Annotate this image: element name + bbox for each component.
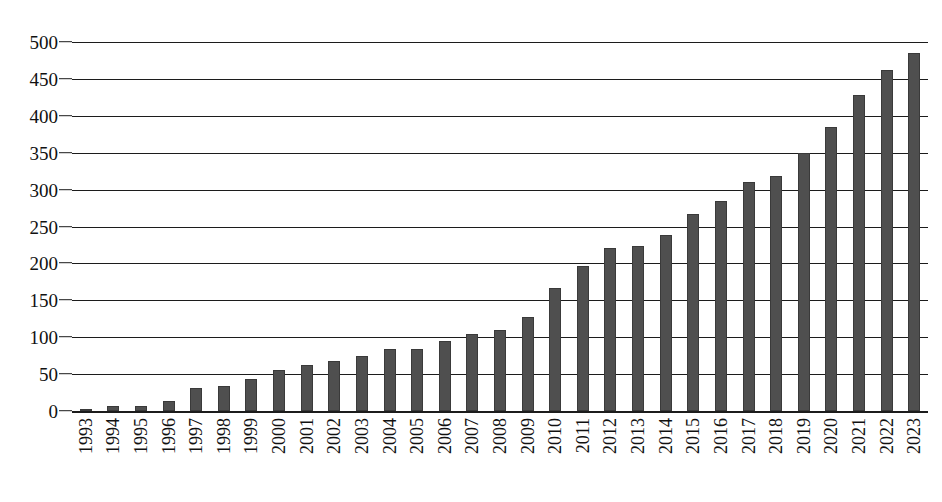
bar-slot — [127, 42, 155, 411]
bar[interactable] — [632, 246, 644, 411]
x-tick-label-2008: 2008 — [491, 418, 509, 454]
x-tick-label-2000: 2000 — [270, 418, 288, 454]
x-tick-label-2007: 2007 — [463, 418, 481, 454]
bar[interactable] — [80, 409, 92, 411]
bar[interactable] — [770, 176, 782, 411]
bar-slot — [624, 42, 652, 411]
bar-slot — [818, 42, 846, 411]
bar-slot — [845, 42, 873, 411]
y-tick-label-50: 50 — [0, 365, 58, 384]
plot-area — [72, 42, 928, 411]
bar[interactable] — [356, 356, 368, 411]
bar-slot — [321, 42, 349, 411]
x-tick-label-2006: 2006 — [436, 418, 454, 454]
bar-slot — [155, 42, 183, 411]
bars-container — [72, 42, 928, 411]
bar[interactable] — [384, 349, 396, 411]
bar[interactable] — [411, 349, 423, 411]
bar-slot — [873, 42, 901, 411]
y-tick-mark-300 — [59, 189, 72, 190]
bar[interactable] — [273, 370, 285, 411]
y-tick-mark-400 — [59, 115, 72, 116]
y-tick-label-0: 0 — [0, 402, 58, 421]
x-tick-label-2020: 2020 — [822, 418, 840, 454]
gridline-0 — [72, 411, 928, 413]
bar-slot — [597, 42, 625, 411]
bar[interactable] — [687, 214, 699, 411]
bar-slot — [486, 42, 514, 411]
bar[interactable] — [328, 361, 340, 411]
x-tick-label-2015: 2015 — [684, 418, 702, 454]
x-tick-label-2018: 2018 — [767, 418, 785, 454]
y-tick-mark-450 — [59, 78, 72, 79]
x-tick-label-2022: 2022 — [878, 418, 896, 454]
y-tick-mark-0 — [59, 410, 72, 411]
bar[interactable] — [715, 201, 727, 411]
bar[interactable] — [163, 401, 175, 411]
bar-slot — [541, 42, 569, 411]
bar[interactable] — [522, 317, 534, 411]
bar-slot — [762, 42, 790, 411]
x-tick-label-2002: 2002 — [325, 418, 343, 454]
y-tick-label-200: 200 — [0, 254, 58, 273]
bar[interactable] — [301, 365, 313, 411]
bar-slot — [790, 42, 818, 411]
y-tick-mark-350 — [59, 152, 72, 153]
x-tick-label-2010: 2010 — [546, 418, 564, 454]
bar-slot — [459, 42, 487, 411]
x-tick-label-2005: 2005 — [408, 418, 426, 454]
y-tick-mark-250 — [59, 226, 72, 227]
bar-slot — [238, 42, 266, 411]
x-tick-label-2016: 2016 — [712, 418, 730, 454]
y-tick-label-300: 300 — [0, 180, 58, 199]
bar-slot — [652, 42, 680, 411]
x-tick-label-1999: 1999 — [242, 418, 260, 454]
y-tick-label-100: 100 — [0, 328, 58, 347]
bar-slot — [72, 42, 100, 411]
bar[interactable] — [577, 266, 589, 411]
bar[interactable] — [798, 153, 810, 411]
x-tick-label-1998: 1998 — [215, 418, 233, 454]
bar-slot — [403, 42, 431, 411]
bar[interactable] — [439, 341, 451, 411]
bar[interactable] — [245, 379, 257, 411]
x-tick-label-2017: 2017 — [740, 418, 758, 454]
bar[interactable] — [190, 388, 202, 411]
bar-slot — [707, 42, 735, 411]
x-tick-label-2014: 2014 — [657, 418, 675, 454]
bar-slot — [569, 42, 597, 411]
bar-slot — [182, 42, 210, 411]
y-tick-label-350: 350 — [0, 143, 58, 162]
bar-slot — [735, 42, 763, 411]
bar[interactable] — [881, 70, 893, 411]
x-tick-label-2019: 2019 — [795, 418, 813, 454]
bar[interactable] — [466, 334, 478, 411]
y-tick-mark-100 — [59, 336, 72, 337]
x-tick-label-2009: 2009 — [519, 418, 537, 454]
bar[interactable] — [825, 127, 837, 411]
bar[interactable] — [218, 386, 230, 411]
y-tick-label-450: 450 — [0, 69, 58, 88]
bar[interactable] — [135, 406, 147, 411]
x-tick-label-1995: 1995 — [132, 418, 150, 454]
x-tick-label-1993: 1993 — [77, 418, 95, 454]
bar[interactable] — [853, 95, 865, 411]
bar-slot — [293, 42, 321, 411]
x-tick-label-1996: 1996 — [160, 418, 178, 454]
bar[interactable] — [908, 53, 920, 411]
bar[interactable] — [743, 182, 755, 411]
bar[interactable] — [549, 288, 561, 411]
y-tick-label-400: 400 — [0, 106, 58, 125]
x-tick-label-2004: 2004 — [381, 418, 399, 454]
bar-slot — [265, 42, 293, 411]
bar[interactable] — [494, 330, 506, 411]
bar[interactable] — [660, 235, 672, 411]
bar-slot — [514, 42, 542, 411]
y-tick-label-150: 150 — [0, 291, 58, 310]
y-tick-mark-500 — [59, 41, 72, 42]
bar-slot — [100, 42, 128, 411]
x-tick-label-2012: 2012 — [601, 418, 619, 454]
bar[interactable] — [107, 406, 119, 411]
bar[interactable] — [604, 248, 616, 411]
bar-slot — [376, 42, 404, 411]
